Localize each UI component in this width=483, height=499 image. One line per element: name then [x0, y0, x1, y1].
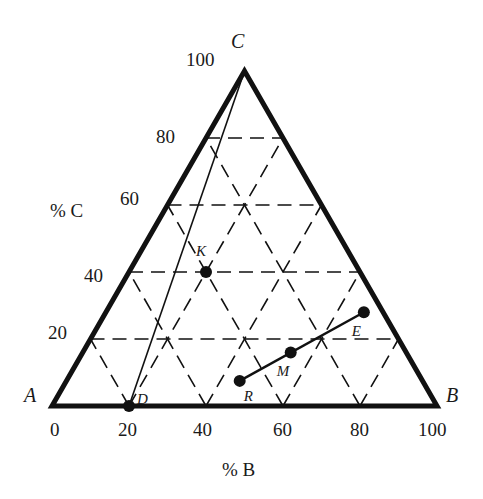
dashed-grid: [91, 138, 399, 406]
point-label-k: K: [195, 243, 207, 259]
b-tick-80: 80: [350, 419, 369, 440]
point-label-m: M: [276, 363, 291, 379]
c-tick-100: 100: [186, 49, 215, 70]
c-tick-40: 40: [84, 265, 103, 286]
vertex-label-b: B: [446, 384, 458, 406]
point-label-r: R: [243, 388, 253, 404]
b-tick-60: 60: [273, 419, 292, 440]
c-axis-label: % C: [50, 200, 83, 221]
point-label-e: E: [351, 323, 361, 339]
c-tick-60: 60: [120, 188, 139, 209]
b-tick-100: 100: [418, 419, 447, 440]
ternary-diagram: KDRME C A B 100 80 60 40 20 % C 0 20 40 …: [0, 0, 483, 499]
triangle-outline: [52, 71, 437, 406]
point-k: [200, 266, 212, 278]
c-tick-80: 80: [156, 126, 175, 147]
point-label-d: D: [136, 391, 148, 407]
point-m: [285, 346, 297, 358]
point-e: [358, 306, 370, 318]
vertex-label-c: C: [231, 30, 245, 52]
b-tick-0: 0: [50, 419, 60, 440]
b-axis-label: % B: [222, 459, 255, 480]
c-tick-20: 20: [48, 322, 67, 343]
vertex-label-a: A: [22, 384, 37, 406]
construction-lines: [129, 71, 364, 406]
b-tick-40: 40: [193, 419, 212, 440]
b-tick-20: 20: [118, 419, 137, 440]
point-r: [234, 375, 246, 387]
point-d: [123, 400, 135, 412]
